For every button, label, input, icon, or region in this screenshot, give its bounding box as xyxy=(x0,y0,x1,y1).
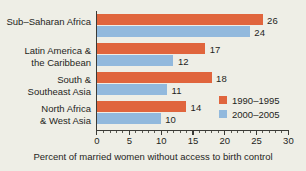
x-axis-minor-tick xyxy=(237,131,238,133)
legend-item: 2000–2005 xyxy=(219,108,280,120)
category-label: North Africa & West Asia xyxy=(0,103,91,126)
bar-value: 17 xyxy=(210,43,221,54)
category-label: South & Southeast Asia xyxy=(0,74,91,97)
legend-label: 2000–2005 xyxy=(232,109,280,120)
x-axis-minor-tick xyxy=(250,131,251,133)
bar-value: 26 xyxy=(267,14,278,25)
legend: 1990–1995 2000–2005 xyxy=(219,94,280,122)
x-axis-minor-tick xyxy=(231,131,232,133)
bar-2000-2005 xyxy=(97,55,173,66)
bar-2000-2005 xyxy=(97,26,250,37)
bar-chart: Sub–Saharan Africa Latin America & the C… xyxy=(0,0,306,171)
x-axis-minor-tick xyxy=(135,131,136,133)
x-axis-tick-label: 20 xyxy=(220,135,231,146)
legend-swatch-icon xyxy=(219,110,227,118)
bar-2000-2005 xyxy=(97,84,167,95)
x-axis-minor-tick xyxy=(243,131,244,133)
x-axis-tick-label: 10 xyxy=(156,135,167,146)
bar-group: 18 11 xyxy=(97,72,288,96)
legend-swatch-icon xyxy=(219,96,227,104)
x-axis-minor-tick xyxy=(205,131,206,133)
x-axis-minor-tick xyxy=(116,131,117,133)
x-axis-minor-tick xyxy=(110,131,111,133)
x-axis-minor-tick xyxy=(218,131,219,133)
category-label: Latin America & the Caribbean xyxy=(0,45,91,68)
x-axis-tick-label: 30 xyxy=(283,135,294,146)
x-axis-minor-tick xyxy=(167,131,168,133)
bar-value: 10 xyxy=(165,113,176,124)
x-axis-tick-label: 0 xyxy=(94,135,99,146)
x-axis-minor-tick xyxy=(148,131,149,133)
bar-1990-1995 xyxy=(97,101,186,112)
x-axis-title: Percent of married women without access … xyxy=(0,151,306,162)
x-axis-tick-label: 15 xyxy=(188,135,199,146)
bar-row: 24 xyxy=(97,26,288,37)
x-axis-minor-tick xyxy=(186,131,187,133)
bar-value: 11 xyxy=(172,84,182,95)
bar-value: 12 xyxy=(178,55,189,66)
bar-row: 26 xyxy=(97,14,288,25)
x-axis-minor-tick xyxy=(154,131,155,133)
y-axis-line xyxy=(96,11,97,131)
legend-item: 1990–1995 xyxy=(219,94,280,106)
bar-row: 12 xyxy=(97,55,288,66)
bar-value: 14 xyxy=(191,101,202,112)
x-axis-minor-tick xyxy=(269,131,270,133)
x-axis-tick-label: 25 xyxy=(251,135,262,146)
x-axis-minor-tick xyxy=(281,131,282,133)
legend-label: 1990–1995 xyxy=(232,95,280,106)
x-axis-minor-tick xyxy=(211,131,212,133)
x-axis-tick-label: 5 xyxy=(127,135,132,146)
bar-value: 24 xyxy=(254,26,265,37)
bar-1990-1995 xyxy=(97,14,263,25)
x-axis-minor-tick xyxy=(142,131,143,133)
bar-row: 18 xyxy=(97,72,288,83)
x-axis-minor-tick xyxy=(262,131,263,133)
category-label: Sub–Saharan Africa xyxy=(0,16,91,28)
x-axis-minor-tick xyxy=(122,131,123,133)
x-axis-minor-tick xyxy=(199,131,200,133)
x-axis-minor-tick xyxy=(173,131,174,133)
bar-2000-2005 xyxy=(97,113,161,124)
x-axis-minor-tick xyxy=(180,131,181,133)
x-axis-minor-tick xyxy=(275,131,276,133)
bar-group: 17 12 xyxy=(97,43,288,67)
bar-group: 26 24 xyxy=(97,14,288,38)
bar-value: 18 xyxy=(216,72,227,83)
bar-1990-1995 xyxy=(97,43,205,54)
x-axis-minor-tick xyxy=(103,131,104,133)
bar-1990-1995 xyxy=(97,72,212,83)
bar-row: 17 xyxy=(97,43,288,54)
